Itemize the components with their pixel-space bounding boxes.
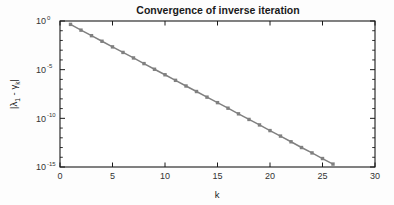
y-tick-label: 10 [36, 16, 46, 26]
x-tick-label: 10 [160, 171, 170, 181]
data-point [321, 157, 324, 160]
data-point [132, 56, 135, 59]
y-tick-label: 10 [36, 65, 46, 75]
y-tick-label: 10 [36, 114, 46, 124]
plot-background [60, 21, 375, 167]
x-tick-label: 25 [317, 171, 327, 181]
data-point [205, 95, 208, 98]
data-point [247, 118, 250, 121]
data-point [216, 101, 219, 104]
data-point [300, 146, 303, 149]
data-point [237, 112, 240, 115]
y-label-close-bar: | [8, 79, 19, 81]
y-tick-exponent: -10 [47, 112, 56, 118]
data-point [184, 84, 187, 87]
data-point [90, 34, 93, 37]
x-tick-label: 30 [370, 171, 380, 181]
data-point [142, 62, 145, 65]
data-point [310, 151, 313, 154]
x-tick-label: 0 [57, 171, 62, 181]
data-point [331, 162, 334, 165]
y-tick-label: 10 [36, 162, 46, 172]
data-point [258, 123, 261, 126]
chart-title: Convergence of inverse iteration [136, 4, 299, 16]
x-tick-label: 20 [265, 171, 275, 181]
plot-canvas: Convergence of inverse iteration 0510152… [0, 0, 394, 205]
data-point [79, 28, 82, 31]
x-axis-label: k [215, 189, 220, 200]
data-point [69, 23, 72, 26]
x-tick-label: 15 [212, 171, 222, 181]
data-point [289, 140, 292, 143]
figure-container: Convergence of inverse iteration 0510152… [0, 0, 394, 205]
x-tick-label: 5 [110, 171, 115, 181]
y-label-minus: - [8, 90, 19, 98]
y-tick-exponent: -5 [47, 63, 53, 69]
y-tick-exponent: -15 [47, 161, 56, 167]
data-point [100, 40, 103, 43]
data-point [163, 73, 166, 76]
data-point [174, 79, 177, 82]
data-point [195, 90, 198, 93]
data-point [226, 107, 229, 110]
data-point [121, 51, 124, 54]
data-point [279, 134, 282, 137]
data-point [111, 45, 114, 48]
data-point [268, 129, 271, 132]
data-point [153, 68, 156, 71]
